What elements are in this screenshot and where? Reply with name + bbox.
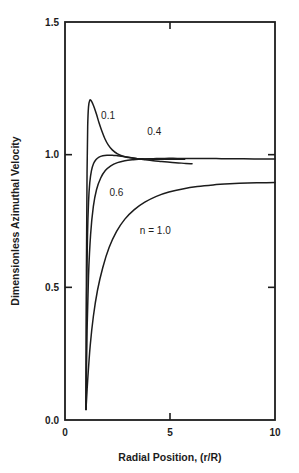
y-axis-title: Dimensionless Azimuthal Velocity xyxy=(9,136,21,306)
chart-figure: 0.00.51.01.50510 0.10.40.6n = 1.0 Radial… xyxy=(0,0,299,473)
y-tick-label: 1.5 xyxy=(45,17,59,28)
y-tick-label: 0.0 xyxy=(45,415,59,426)
y-tick-label: 0.5 xyxy=(45,282,59,293)
x-tick-label: 5 xyxy=(167,427,173,438)
curve-label-n10: n = 1.0 xyxy=(140,225,171,236)
x-tick-label: 10 xyxy=(269,427,281,438)
y-tick-label: 1.0 xyxy=(45,149,59,160)
x-axis-title: Radial Position, (r/R) xyxy=(118,451,221,463)
azimuthal-velocity-line-chart: 0.00.51.01.50510 0.10.40.6n = 1.0 Radial… xyxy=(0,0,299,473)
curve-label-06: 0.6 xyxy=(109,187,123,198)
x-tick-label: 0 xyxy=(62,427,68,438)
curve-label-01: 0.1 xyxy=(101,110,115,121)
curve-label-04: 0.4 xyxy=(147,126,161,137)
chart-background xyxy=(0,0,299,473)
